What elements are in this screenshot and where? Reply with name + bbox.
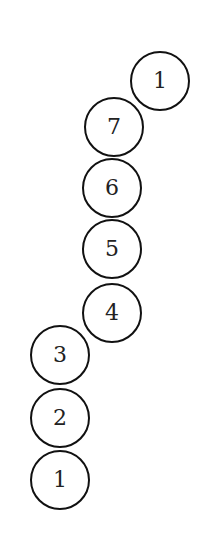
- node-label: 1: [53, 469, 67, 491]
- node-circle-6: 6: [82, 158, 142, 218]
- node-circle-5: 5: [82, 219, 142, 279]
- node-circle-3: 3: [30, 325, 90, 385]
- node-label: 6: [105, 177, 119, 199]
- node-label: 7: [107, 116, 121, 138]
- node-circle-top-1: 1: [130, 51, 190, 111]
- node-label: 3: [53, 344, 67, 366]
- node-label: 5: [105, 238, 119, 260]
- node-label: 4: [105, 302, 119, 324]
- node-circle-7: 7: [84, 97, 144, 157]
- node-circle-bottom-1: 1: [30, 450, 90, 510]
- node-label: 2: [53, 407, 67, 429]
- node-circle-4: 4: [82, 283, 142, 343]
- node-label: 1: [153, 70, 167, 92]
- node-circle-2: 2: [30, 388, 90, 448]
- diagram-canvas: 1 7 6 5 4 3 2 1: [0, 0, 204, 544]
